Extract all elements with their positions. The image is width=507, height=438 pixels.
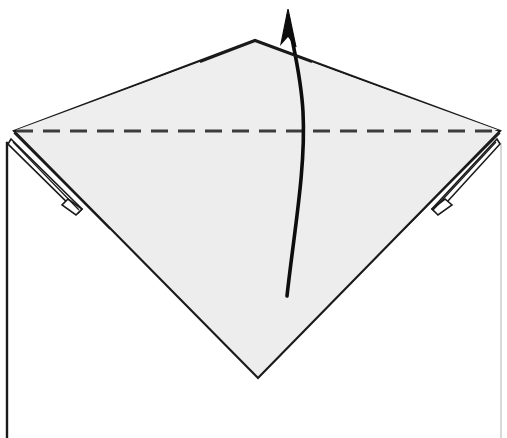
origami-diagram-figure <box>0 0 507 438</box>
diagram-canvas <box>0 0 507 438</box>
